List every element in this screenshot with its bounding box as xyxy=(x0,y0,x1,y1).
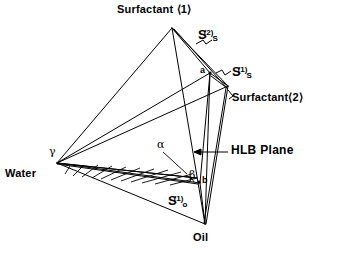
tetrahedron-phase-diagram: Surfactant ⟨1⟩ Surfactant⟨2⟩ Water Oil a… xyxy=(0,0,337,255)
vertex-label-surfactant1: Surfactant ⟨1⟩ xyxy=(117,4,191,15)
hlb-plane-label: HLB Plane xyxy=(231,144,294,156)
point-marker-b xyxy=(197,180,200,183)
edge-surfactant1-water xyxy=(57,28,172,163)
point-label-beta: β xyxy=(189,170,195,181)
vertex-label-oil: Oil xyxy=(193,232,208,243)
hlb-leader-arrowhead xyxy=(194,149,201,155)
vertex-label-surfactant2: Surfactant⟨2⟩ xyxy=(232,92,303,103)
edge-b-oil xyxy=(200,183,205,224)
point-marker-a xyxy=(208,71,211,74)
point-label-gamma: γ xyxy=(49,146,56,157)
diagram-canvas xyxy=(0,0,337,255)
point-label-alpha: α xyxy=(157,139,164,150)
hlb-leader xyxy=(194,149,228,155)
edge-water-surfactant2 xyxy=(57,86,228,163)
point-label-b: b xyxy=(202,176,208,185)
point-label-a: a xyxy=(200,66,205,75)
symbol-ss1-subscript: S xyxy=(246,71,251,80)
hatched-region-lower-edge xyxy=(57,164,198,184)
hatch-line xyxy=(142,172,181,183)
symbol-ss2-subscript: S xyxy=(212,34,217,43)
symbol-so1-subscript: o xyxy=(182,200,187,209)
symbol-so1: S(1)o xyxy=(168,194,187,209)
symbol-ss2: S(2)S xyxy=(198,28,218,43)
symbol-ss1: S(1)S xyxy=(232,65,252,80)
ss1-connector xyxy=(216,70,231,75)
vertex-label-water: Water xyxy=(5,168,36,179)
